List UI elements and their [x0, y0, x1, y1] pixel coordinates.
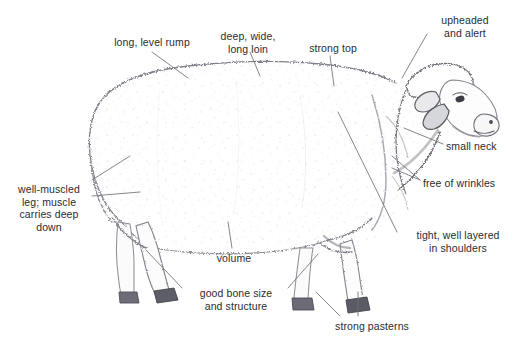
callout-volume: volume: [209, 252, 259, 265]
callout-tight-well-layered-in-shoulders: tight, well layered in shoulders: [400, 229, 516, 254]
leader-strong-pasterns-a: [316, 292, 340, 316]
front-leg-far: [294, 248, 313, 302]
front-leg-near: [340, 240, 364, 305]
nostril: [489, 120, 493, 124]
callout-small-neck: small neck: [446, 140, 516, 153]
hoof-rear-near: [154, 288, 178, 303]
callout-strong-top: strong top: [299, 42, 367, 55]
diagram-canvas: long, level rump deep, wide, long loin s…: [0, 0, 517, 353]
sheep-body: [80, 55, 440, 260]
callout-long-level-rump: long, level rump: [100, 36, 204, 49]
callout-strong-pasterns: strong pasterns: [324, 320, 420, 333]
callout-upheaded-and-alert: upheaded and alert: [429, 14, 501, 39]
callout-well-muscled-leg: well-muscled leg; muscle carries deep do…: [8, 183, 90, 233]
callout-deep-wide-long-loin: deep, wide, long loin: [206, 30, 290, 55]
callout-good-bone-size-and-structure: good bone size and structure: [186, 287, 286, 312]
hoof-rear-far: [119, 292, 139, 303]
hoof-front-far: [292, 298, 314, 310]
callout-free-of-wrinkles: free of wrinkles: [423, 177, 517, 190]
